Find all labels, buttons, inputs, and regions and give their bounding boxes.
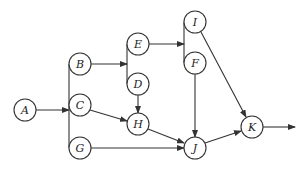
node-k-label: K	[247, 121, 257, 134]
edge-i-to-k	[201, 32, 246, 117]
node-i-label: I	[192, 16, 198, 29]
node-a-label: A	[20, 104, 29, 117]
node-g-label: G	[76, 142, 85, 155]
node-e: E	[127, 33, 149, 55]
node-i: I	[184, 11, 206, 33]
node-a: A	[14, 99, 36, 121]
edge-h-to-j	[148, 129, 184, 143]
edge-j-to-k	[205, 131, 241, 143]
node-g: G	[69, 137, 91, 159]
node-j-label: J	[191, 142, 198, 155]
node-e-label: E	[133, 38, 142, 51]
node-j: J	[184, 137, 206, 159]
node-d-label: D	[133, 78, 143, 91]
edge-c-to-h	[90, 110, 127, 121]
node-f-label: F	[190, 57, 199, 70]
node-h: H	[127, 113, 149, 135]
node-d: D	[127, 73, 149, 95]
node-b: B	[69, 53, 91, 75]
node-b-label: B	[75, 58, 84, 71]
network-diagram: A B C G E D H I F J K	[0, 0, 307, 177]
node-c: C	[69, 94, 91, 116]
node-f: F	[184, 52, 206, 74]
node-h-label: H	[132, 118, 143, 131]
node-c-label: C	[76, 99, 85, 112]
node-k: K	[241, 116, 263, 138]
